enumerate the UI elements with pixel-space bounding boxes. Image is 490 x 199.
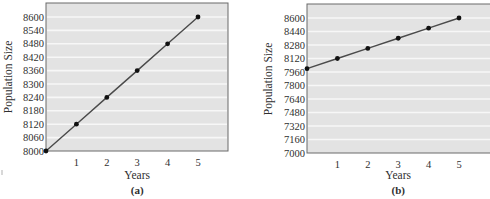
data-point-marker [44, 149, 49, 154]
line-chart-b: 7000716073207480764078007960812082808440… [245, 0, 490, 199]
y-tick-label: 8280 [284, 40, 305, 51]
chart-caption: (a) [131, 184, 144, 197]
y-tick-label: 8360 [23, 65, 44, 76]
y-tick-label: 7160 [284, 134, 305, 145]
scan-artifact [1, 170, 3, 175]
y-tick-label: 7000 [284, 148, 305, 159]
y-tick-label: 8420 [23, 52, 44, 63]
x-axis-title: Years [124, 169, 150, 181]
y-tick-label: 8600 [284, 13, 305, 24]
x-tick-label: 5 [195, 157, 200, 168]
y-tick-label: 8540 [23, 25, 44, 36]
data-point-marker [196, 15, 201, 20]
data-point-marker [74, 122, 79, 127]
data-point-marker [426, 26, 431, 31]
x-tick-label: 2 [365, 159, 370, 170]
data-point-marker [165, 41, 170, 46]
data-point-marker [135, 68, 140, 73]
y-tick-label: 7640 [284, 94, 305, 105]
y-tick-label: 8120 [23, 119, 44, 130]
data-point-marker [104, 95, 109, 100]
y-tick-label: 8600 [23, 12, 44, 23]
y-tick-label: 7800 [284, 80, 305, 91]
chart-caption: (b) [391, 184, 405, 197]
data-point-marker [335, 56, 340, 61]
y-tick-label: 7320 [284, 121, 305, 132]
x-tick-label: 5 [456, 159, 461, 170]
plot-area [307, 4, 490, 153]
x-tick-label: 1 [335, 159, 340, 170]
data-point-marker [365, 46, 370, 51]
y-tick-label: 8120 [284, 53, 305, 64]
y-tick-label: 8180 [23, 105, 44, 116]
line-chart-a: 8000806081208180824083008360842084808540… [0, 0, 245, 199]
x-tick-label: 2 [104, 157, 109, 168]
chart-panel-b: 7000716073207480764078007960812082808440… [245, 0, 490, 199]
data-point-marker [305, 66, 310, 71]
chart-panel-a: 8000806081208180824083008360842084808540… [0, 0, 245, 199]
x-tick-label: 4 [426, 159, 432, 170]
data-point-marker [396, 36, 401, 41]
y-tick-label: 8240 [23, 92, 44, 103]
data-point-marker [457, 16, 462, 21]
y-tick-label: 8440 [284, 26, 305, 37]
y-axis-title: Population Size [2, 41, 15, 114]
y-tick-label: 8060 [23, 132, 44, 143]
x-tick-label: 3 [135, 157, 140, 168]
y-axis-title: Population Size [262, 43, 275, 116]
y-tick-label: 8000 [23, 146, 44, 157]
plot-area [46, 3, 228, 151]
x-tick-label: 1 [74, 157, 79, 168]
x-axis-title: Years [385, 169, 411, 181]
y-tick-label: 8480 [23, 38, 44, 49]
y-tick-label: 8300 [23, 79, 44, 90]
y-tick-label: 7960 [284, 67, 305, 78]
x-tick-label: 4 [165, 157, 171, 168]
y-tick-label: 7480 [284, 107, 305, 118]
